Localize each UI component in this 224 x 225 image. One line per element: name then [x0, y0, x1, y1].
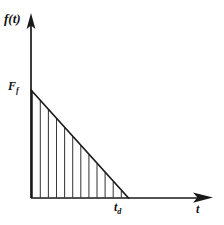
y-axis-label: f(t) — [4, 12, 21, 25]
figure-container: f(t) Ff td t — [0, 0, 224, 225]
x-axis-label: t — [196, 203, 199, 215]
x-axis-tick-label-duration: td — [114, 201, 121, 217]
plot-canvas — [0, 0, 224, 225]
duration-symbol-subscript: d — [117, 207, 121, 216]
peak-symbol: F — [8, 79, 16, 93]
load-function-line — [31, 90, 129, 198]
peak-symbol-subscript: f — [16, 86, 19, 95]
y-axis-tick-label-peak: Ff — [8, 80, 19, 96]
